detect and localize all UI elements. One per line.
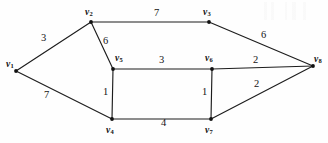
vertex-label-base: v bbox=[203, 7, 207, 17]
vertex-label-subscript: 5 bbox=[120, 56, 123, 63]
edge-weight-label: 1 bbox=[202, 87, 207, 98]
edge-weight-label: 7 bbox=[44, 90, 49, 101]
vertex-label-subscript: 4 bbox=[111, 128, 114, 135]
edge-weight-label: 7 bbox=[154, 8, 159, 19]
vertex-label-v5: v5 bbox=[115, 54, 123, 64]
graph-edge bbox=[16, 22, 91, 71]
graph-vertex-dot bbox=[14, 69, 18, 73]
graph-vertex-dot bbox=[209, 117, 213, 121]
vertex-label-subscript: 1 bbox=[11, 62, 14, 69]
vertex-label-base: v bbox=[6, 59, 10, 69]
vertex-label-subscript: 7 bbox=[210, 128, 213, 135]
vertex-label-v2: v2 bbox=[85, 8, 93, 18]
graph-edge bbox=[212, 66, 313, 69]
vertex-label-subscript: 3 bbox=[208, 10, 211, 17]
vertex-label-base: v bbox=[106, 125, 110, 135]
vertex-label-v6: v6 bbox=[205, 54, 213, 64]
vertex-label-subscript: 2 bbox=[90, 10, 93, 17]
vertex-label-v3: v3 bbox=[203, 8, 211, 18]
graph-edge bbox=[112, 69, 113, 119]
vertex-label-subscript: 8 bbox=[319, 57, 322, 64]
edge-weight-label: 2 bbox=[253, 55, 258, 66]
edge-weight-label: 1 bbox=[103, 87, 108, 98]
vertex-label-subscript: 6 bbox=[210, 56, 213, 63]
graph-edge bbox=[211, 69, 212, 119]
vertex-label-base: v bbox=[85, 7, 89, 17]
edge-weight-label: 3 bbox=[159, 55, 164, 66]
edge-weight-label: 3 bbox=[41, 33, 46, 44]
graph-vertex-dot bbox=[111, 67, 115, 71]
graph-edge bbox=[91, 22, 113, 69]
vertex-label-v1: v1 bbox=[6, 60, 14, 70]
graph-vertex-dot bbox=[311, 64, 315, 68]
vertex-label-base: v bbox=[314, 54, 318, 64]
vertex-label-base: v bbox=[115, 53, 119, 63]
graph-vertex-dot bbox=[207, 20, 211, 24]
graph-vertex-dot bbox=[110, 117, 114, 121]
vertex-label-v4: v4 bbox=[106, 126, 114, 136]
vertices-group bbox=[14, 20, 315, 121]
edges-group bbox=[16, 22, 313, 119]
graph-edge bbox=[211, 66, 313, 119]
vertex-label-base: v bbox=[205, 53, 209, 63]
graph-vertex-dot bbox=[210, 67, 214, 71]
weighted-graph-figure: 37766311224v1v2v3v4v5v6v7v8 bbox=[0, 0, 328, 143]
vertex-label-base: v bbox=[205, 125, 209, 135]
graph-edge bbox=[16, 71, 112, 119]
edge-weight-label: 6 bbox=[103, 36, 108, 47]
vertex-label-v8: v8 bbox=[314, 55, 322, 65]
graph-vertex-dot bbox=[89, 20, 93, 24]
edge-weight-label: 6 bbox=[261, 30, 266, 41]
edge-weight-label: 4 bbox=[161, 118, 166, 129]
vertex-label-v7: v7 bbox=[205, 126, 213, 136]
edge-weight-label: 2 bbox=[254, 79, 259, 90]
